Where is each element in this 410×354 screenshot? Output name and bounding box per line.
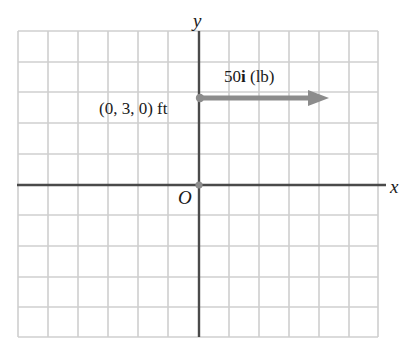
force-vector-label: 50i (lb) xyxy=(224,68,275,85)
force-magnitude-text: 50 xyxy=(224,67,241,86)
origin-point-marker xyxy=(195,181,202,188)
force-application-point-marker xyxy=(196,94,204,102)
y-axis-label: y xyxy=(193,11,201,30)
x-axis-label: x xyxy=(390,177,398,196)
origin-label: O xyxy=(178,188,192,207)
force-vector-diagram: y x O (0, 3, 0) ft 50i (lb) xyxy=(0,0,410,354)
force-application-point-label: (0, 3, 0) ft xyxy=(99,100,167,117)
coordinate-plot-svg xyxy=(0,0,410,354)
force-units-text: (lb) xyxy=(246,67,275,86)
